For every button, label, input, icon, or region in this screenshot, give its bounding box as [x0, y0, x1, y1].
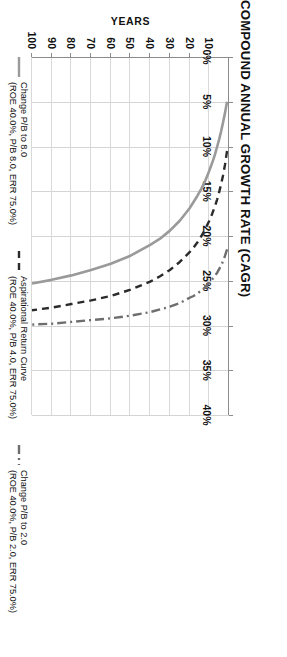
x-tick-mark	[229, 191, 233, 192]
y-axis-label: YEARS	[32, 14, 229, 28]
y-tick-label: 70	[85, 37, 97, 49]
legend-label-detail: (ROE 40.0%, P/B 4.0, ERR 75.0%)	[7, 276, 18, 419]
legend-label-title: Change P/B to 2.0	[18, 470, 29, 613]
legend-swatch-icon	[18, 445, 28, 465]
legend-label-title: Aspirational Return Curve	[18, 276, 29, 419]
y-tick-label: 10	[203, 37, 215, 49]
x-tick-mark	[229, 102, 233, 103]
chart-legend: Change P/B to 8.0(ROE 40.0%, P/B 8.0, ER…	[7, 57, 29, 657]
series-line	[32, 102, 227, 284]
legend-label-title: Change P/B to 8.0	[18, 82, 29, 225]
chart-figure: COMPOUND ANNUAL GROWTH RATE (CAGR) YEARS…	[0, 0, 287, 657]
x-tick-mark	[229, 281, 233, 282]
series-line	[32, 249, 227, 324]
y-tick-label: 20	[184, 37, 196, 49]
legend-label-detail: (ROE 40.0%, P/B 8.0, ERR 75.0%)	[7, 82, 18, 225]
legend-label: Change P/B to 2.0(ROE 40.0%, P/B 2.0, ER…	[7, 470, 29, 613]
gridline-vertical	[32, 415, 229, 416]
y-axis-label-text: YEARS	[111, 15, 150, 27]
y-tick-label: 60	[105, 37, 117, 49]
legend-item[interactable]: Change P/B to 2.0(ROE 40.0%, P/B 2.0, ER…	[7, 445, 29, 613]
series-curves	[32, 57, 229, 415]
legend-swatch-icon	[18, 251, 28, 271]
y-tick-label: 90	[46, 37, 58, 49]
x-tick-mark	[229, 326, 233, 327]
legend-item[interactable]: Change P/B to 8.0(ROE 40.0%, P/B 8.0, ER…	[7, 57, 29, 225]
y-tick-label: 100	[26, 31, 38, 49]
x-tick-mark	[229, 415, 233, 416]
x-tick-mark	[229, 57, 233, 58]
y-tick-label: 40	[144, 37, 156, 49]
legend-swatch-icon	[18, 57, 28, 77]
plot-area: 0%5%10%15%20%25%30%35%40% 10203040506070…	[32, 57, 229, 415]
x-tick-mark	[229, 147, 233, 148]
y-tick-label: 30	[164, 37, 176, 49]
legend-label-detail: (ROE 40.0%, P/B 2.0, ERR 75.0%)	[7, 470, 18, 613]
chart-title: COMPOUND ANNUAL GROWTH RATE (CAGR)	[238, 0, 253, 360]
legend-label: Aspirational Return Curve(ROE 40.0%, P/B…	[7, 276, 29, 419]
x-tick-mark	[229, 236, 233, 237]
y-tick-label: 80	[65, 37, 77, 49]
rotated-figure-wrapper: COMPOUND ANNUAL GROWTH RATE (CAGR) YEARS…	[0, 0, 287, 657]
x-tick-mark	[229, 370, 233, 371]
series-line	[32, 151, 227, 310]
legend-label: Change P/B to 8.0(ROE 40.0%, P/B 8.0, ER…	[7, 82, 29, 225]
y-tick-label: 50	[125, 37, 137, 49]
legend-item[interactable]: Aspirational Return Curve(ROE 40.0%, P/B…	[7, 251, 29, 419]
